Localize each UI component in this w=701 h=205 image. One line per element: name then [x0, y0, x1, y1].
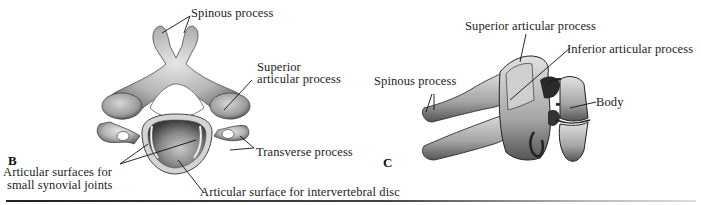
label-body-c: Body [596, 96, 624, 109]
label-transverse-process-b: Transverse process [256, 146, 353, 159]
label-spinous-process-c: Spinous process [374, 75, 456, 88]
label-superior-articular-line2-b: articular process [257, 73, 341, 86]
bottom-rule-divider [6, 200, 696, 202]
label-articular-surfaces-line2-b: small synovial joints [7, 179, 113, 192]
label-spinous-process-b: Spinous process [191, 7, 273, 20]
label-superior-articular-process-c: Superior articular process [465, 20, 596, 33]
panel-letter-c: C [383, 155, 392, 171]
figure: Spinous process Superior articular proce… [0, 0, 701, 205]
label-articular-surface-disc-b: Articular surface for intervertebral dis… [200, 186, 400, 199]
label-inferior-articular-process-c: Inferior articular process [567, 43, 693, 56]
vertebra-superior-view [97, 26, 250, 174]
vertebra-lateral-view [422, 56, 590, 161]
